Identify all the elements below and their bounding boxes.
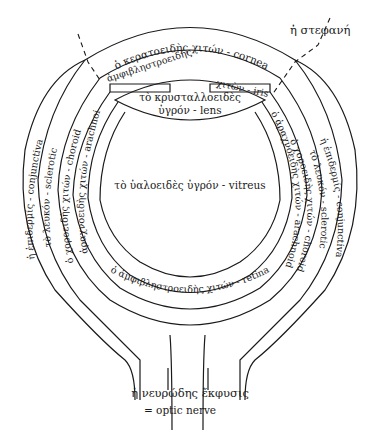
vitreous-label: τὸ ὑαλοειδὲς ὑγρόν - vitreus xyxy=(114,179,265,191)
stephane-label: ἡ στεφανή xyxy=(290,23,351,37)
optic-nerve-label-line1: ἡ νευρώδης ἔκφυσις xyxy=(131,386,249,400)
eye-diagram: ὁ κερατοειδὴς χιτών - cornea ἡ στεφανή ἀ… xyxy=(0,0,380,445)
lens-label-line2: ὑγρόν - lens xyxy=(158,104,221,116)
arachnoid-right-label: ὁ ἀραχνοειδὴς χιτών - arachnoid xyxy=(269,109,305,269)
optic-nerve-label-line2: = optic nerve xyxy=(144,404,216,416)
sclerotic-left-label: τὸ λευκόν - sclerotic xyxy=(40,147,59,248)
lens-label-line1: τὸ κρυσταλλοειδὲς xyxy=(139,91,241,103)
retina-label: ὁ ἀμφιβληστροειδὴς χιτών - retina xyxy=(109,264,271,295)
